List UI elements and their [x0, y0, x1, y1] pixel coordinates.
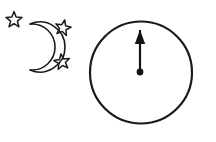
line-art-illustration — [0, 0, 216, 142]
arrow-base-dot-icon — [137, 69, 144, 76]
up-arrow-shaft — [139, 30, 141, 71]
figure-canvas — [0, 0, 216, 142]
